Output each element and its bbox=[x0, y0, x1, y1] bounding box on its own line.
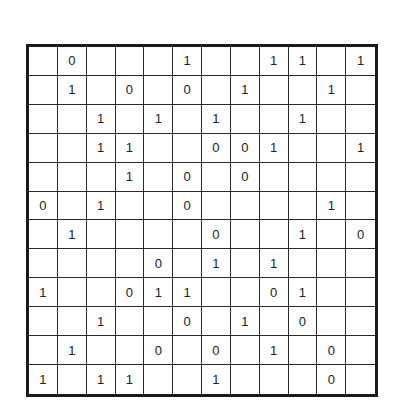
empty-cell[interactable] bbox=[289, 134, 318, 163]
empty-cell[interactable] bbox=[173, 249, 202, 278]
empty-cell[interactable] bbox=[29, 105, 58, 134]
empty-cell[interactable] bbox=[173, 134, 202, 163]
empty-cell[interactable] bbox=[87, 220, 116, 249]
empty-cell[interactable] bbox=[29, 76, 58, 105]
empty-cell[interactable] bbox=[58, 163, 87, 192]
empty-cell[interactable] bbox=[202, 47, 231, 76]
given-cell: 1 bbox=[289, 220, 318, 249]
given-cell: 1 bbox=[260, 134, 289, 163]
empty-cell[interactable] bbox=[173, 336, 202, 365]
empty-cell[interactable] bbox=[58, 249, 87, 278]
empty-cell[interactable] bbox=[173, 365, 202, 394]
empty-cell[interactable] bbox=[317, 47, 346, 76]
empty-cell[interactable] bbox=[29, 307, 58, 336]
empty-cell[interactable] bbox=[87, 249, 116, 278]
empty-cell[interactable] bbox=[87, 163, 116, 192]
empty-cell[interactable] bbox=[289, 249, 318, 278]
empty-cell[interactable] bbox=[231, 336, 260, 365]
empty-cell[interactable] bbox=[202, 278, 231, 307]
empty-cell[interactable] bbox=[260, 307, 289, 336]
empty-cell[interactable] bbox=[58, 134, 87, 163]
empty-cell[interactable] bbox=[317, 278, 346, 307]
empty-cell[interactable] bbox=[87, 76, 116, 105]
given-cell: 0 bbox=[202, 220, 231, 249]
empty-cell[interactable] bbox=[289, 192, 318, 221]
empty-cell[interactable] bbox=[144, 192, 173, 221]
empty-cell[interactable] bbox=[231, 249, 260, 278]
empty-cell[interactable] bbox=[116, 220, 145, 249]
empty-cell[interactable] bbox=[87, 278, 116, 307]
empty-cell[interactable] bbox=[289, 365, 318, 394]
empty-cell[interactable] bbox=[29, 163, 58, 192]
empty-cell[interactable] bbox=[87, 336, 116, 365]
empty-cell[interactable] bbox=[116, 336, 145, 365]
empty-cell[interactable] bbox=[260, 105, 289, 134]
empty-cell[interactable] bbox=[317, 220, 346, 249]
empty-cell[interactable] bbox=[231, 220, 260, 249]
empty-cell[interactable] bbox=[346, 249, 375, 278]
empty-cell[interactable] bbox=[317, 249, 346, 278]
empty-cell[interactable] bbox=[289, 336, 318, 365]
empty-cell[interactable] bbox=[202, 307, 231, 336]
empty-cell[interactable] bbox=[346, 192, 375, 221]
empty-cell[interactable] bbox=[144, 76, 173, 105]
empty-cell[interactable] bbox=[317, 105, 346, 134]
empty-cell[interactable] bbox=[231, 47, 260, 76]
given-cell: 1 bbox=[260, 336, 289, 365]
empty-cell[interactable] bbox=[231, 192, 260, 221]
given-cell: 0 bbox=[346, 220, 375, 249]
empty-cell[interactable] bbox=[116, 192, 145, 221]
empty-cell[interactable] bbox=[346, 336, 375, 365]
empty-cell[interactable] bbox=[289, 76, 318, 105]
given-cell: 1 bbox=[116, 365, 145, 394]
empty-cell[interactable] bbox=[58, 192, 87, 221]
empty-cell[interactable] bbox=[317, 307, 346, 336]
empty-cell[interactable] bbox=[346, 163, 375, 192]
empty-cell[interactable] bbox=[144, 220, 173, 249]
empty-cell[interactable] bbox=[346, 76, 375, 105]
empty-cell[interactable] bbox=[116, 307, 145, 336]
given-cell: 0 bbox=[317, 336, 346, 365]
empty-cell[interactable] bbox=[346, 105, 375, 134]
empty-cell[interactable] bbox=[29, 336, 58, 365]
empty-cell[interactable] bbox=[346, 365, 375, 394]
empty-cell[interactable] bbox=[116, 105, 145, 134]
given-cell: 0 bbox=[173, 192, 202, 221]
empty-cell[interactable] bbox=[144, 365, 173, 394]
empty-cell[interactable] bbox=[58, 105, 87, 134]
empty-cell[interactable] bbox=[29, 134, 58, 163]
empty-cell[interactable] bbox=[144, 47, 173, 76]
empty-cell[interactable] bbox=[29, 249, 58, 278]
empty-cell[interactable] bbox=[144, 134, 173, 163]
empty-cell[interactable] bbox=[29, 47, 58, 76]
empty-cell[interactable] bbox=[260, 220, 289, 249]
empty-cell[interactable] bbox=[58, 365, 87, 394]
empty-cell[interactable] bbox=[116, 249, 145, 278]
empty-cell[interactable] bbox=[260, 192, 289, 221]
empty-cell[interactable] bbox=[58, 307, 87, 336]
empty-cell[interactable] bbox=[260, 365, 289, 394]
empty-cell[interactable] bbox=[202, 76, 231, 105]
empty-cell[interactable] bbox=[231, 278, 260, 307]
empty-cell[interactable] bbox=[58, 278, 87, 307]
empty-cell[interactable] bbox=[260, 76, 289, 105]
empty-cell[interactable] bbox=[202, 163, 231, 192]
empty-cell[interactable] bbox=[317, 134, 346, 163]
empty-cell[interactable] bbox=[231, 105, 260, 134]
given-cell: 1 bbox=[144, 278, 173, 307]
empty-cell[interactable] bbox=[260, 163, 289, 192]
empty-cell[interactable] bbox=[87, 47, 116, 76]
given-cell: 0 bbox=[231, 134, 260, 163]
empty-cell[interactable] bbox=[29, 220, 58, 249]
empty-cell[interactable] bbox=[231, 365, 260, 394]
empty-cell[interactable] bbox=[202, 192, 231, 221]
empty-cell[interactable] bbox=[116, 47, 145, 76]
empty-cell[interactable] bbox=[144, 163, 173, 192]
empty-cell[interactable] bbox=[346, 307, 375, 336]
empty-cell[interactable] bbox=[173, 220, 202, 249]
empty-cell[interactable] bbox=[317, 163, 346, 192]
empty-cell[interactable] bbox=[173, 105, 202, 134]
empty-cell[interactable] bbox=[346, 278, 375, 307]
empty-cell[interactable] bbox=[144, 307, 173, 336]
empty-cell[interactable] bbox=[289, 163, 318, 192]
